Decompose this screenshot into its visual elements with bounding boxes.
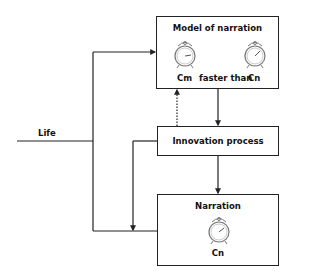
alarm-clock-icon — [242, 39, 268, 69]
narration-cn-label: Cn — [158, 248, 278, 258]
narration-title: Narration — [158, 201, 278, 211]
relation-label: faster than — [199, 73, 252, 83]
innovation-title: Innovation process — [158, 136, 278, 146]
alarm-clock-icon — [172, 39, 198, 69]
model-title: Model of narration — [157, 23, 278, 33]
narration-box: Narration Cn — [157, 194, 279, 266]
model-of-narration-box: Model of narration Cm faster than Cn — [156, 16, 279, 89]
cm-label: Cm — [177, 73, 192, 83]
life-label: Life — [38, 128, 56, 138]
innovation-process-box: Innovation process — [157, 126, 279, 156]
cn-label: Cn — [248, 73, 260, 83]
alarm-clock-icon — [206, 215, 232, 245]
